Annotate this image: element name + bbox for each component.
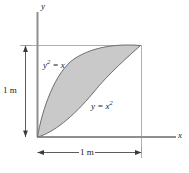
dimension-arrow-right: [135, 150, 142, 155]
curve-label-y2-rest: = x: [50, 60, 65, 70]
y-axis-label: y: [41, 1, 45, 11]
dimension-label-horizontal: 1 m: [79, 147, 95, 157]
dimension-arrow-top: [23, 46, 28, 53]
figure-container: y x y2 = x y = x2 1 m 1 m: [0, 0, 189, 173]
curve-label-x2-exponent: 2: [110, 99, 113, 106]
curve-label-x2-base: y = x: [91, 101, 110, 111]
shaded-region: [38, 45, 141, 137]
x-axis-label: x: [178, 130, 182, 140]
dimension-arrow-left: [38, 150, 45, 155]
curve-label-y-equals-x2: y = x2: [91, 101, 113, 111]
dimension-label-vertical: 1 m: [2, 85, 18, 95]
curve-label-y2-equals-x: y2 = x: [43, 60, 65, 70]
dimension-arrow-bottom: [23, 131, 28, 138]
